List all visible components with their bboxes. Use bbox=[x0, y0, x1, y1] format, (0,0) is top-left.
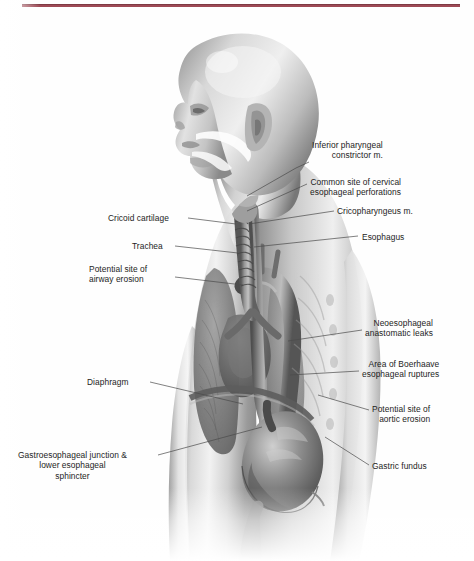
label-common-site-cervical-perforations: Common site of cervical esophageal perfo… bbox=[310, 177, 401, 198]
label-diaphragm: Diaphragm bbox=[87, 377, 128, 387]
anatomy-figure-page: Inferior pharyngeal constrictor m.Common… bbox=[0, 0, 474, 561]
label-neoesophageal-anastomotic-leaks: Neoesophageal anastomatic leaks bbox=[365, 318, 433, 339]
label-gastroesophageal-junction: Gastroesophageal junction & lower esopha… bbox=[18, 450, 127, 481]
label-trachea: Trachea bbox=[132, 241, 163, 251]
label-potential-site-airway-erosion: Potential site of airway erosion bbox=[89, 264, 147, 285]
label-potential-site-aortic-erosion: Potential site of aortic erosion bbox=[372, 404, 430, 425]
label-gastric-fundus: Gastric fundus bbox=[372, 461, 427, 471]
label-layer: Inferior pharyngeal constrictor m.Common… bbox=[0, 0, 474, 561]
label-cricoid-cartilage: Cricoid cartilage bbox=[108, 213, 169, 223]
label-cricopharyngeus-muscle: Cricopharyngeus m. bbox=[337, 206, 413, 216]
label-area-of-boerhaave-ruptures: Area of Boerhaave esophageal ruptures bbox=[362, 359, 439, 380]
label-inferior-pharyngeal-constrictor: Inferior pharyngeal constrictor m. bbox=[312, 140, 383, 161]
label-esophagus: Esophagus bbox=[362, 232, 404, 242]
